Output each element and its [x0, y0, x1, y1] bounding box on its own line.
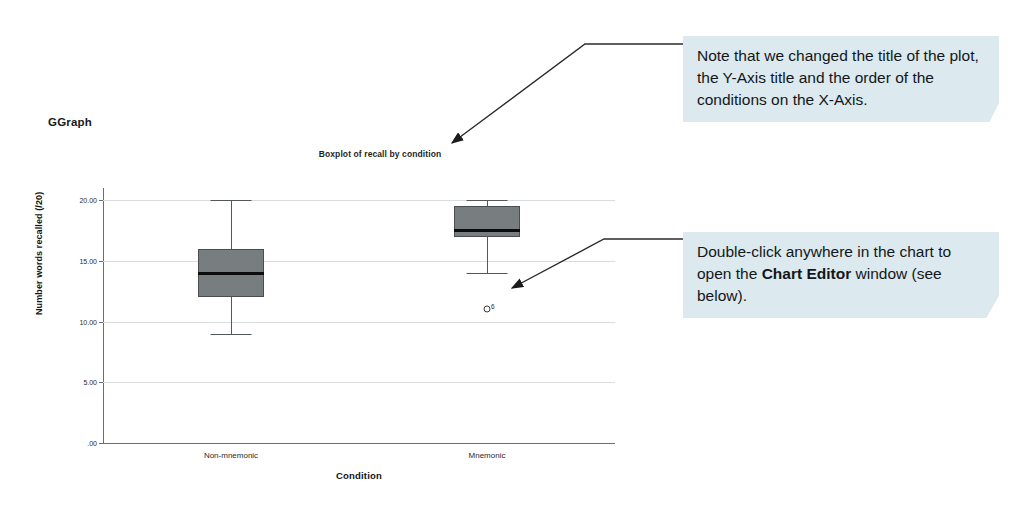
x-tick-label-mnemonic: Mnemonic	[469, 451, 506, 460]
y-tick-mark	[99, 261, 103, 262]
ggraph-section-label: GGraph	[48, 116, 92, 128]
leader-line-1	[452, 44, 683, 143]
gridline	[103, 261, 615, 262]
boxplot-chart[interactable]: Boxplot of recall by condition Number wo…	[40, 140, 640, 490]
y-tick-label: 10.00	[79, 318, 97, 325]
gridline	[103, 322, 615, 323]
whisker-cap-lower	[467, 273, 508, 274]
y-tick-mark	[99, 200, 103, 201]
callout-2-text-part-1: Chart Editor	[762, 265, 852, 282]
median-line	[454, 229, 520, 232]
gridline	[103, 200, 615, 201]
y-tick-mark	[99, 382, 103, 383]
y-tick-mark	[99, 443, 103, 444]
callout-title-note: Note that we changed the title of the pl…	[683, 36, 999, 122]
x-axis-title: Condition	[103, 470, 615, 481]
outlier-case-label: 6	[491, 303, 495, 310]
whisker-cap-upper	[467, 200, 508, 201]
y-tick-label: 15.00	[79, 257, 97, 264]
chart-title: Boxplot of recall by condition	[255, 149, 505, 159]
y-tick-label: .00	[87, 440, 97, 447]
y-axis-title: Number words recalled (/20)	[34, 192, 44, 315]
y-tick-mark	[99, 322, 103, 323]
plot-area[interactable]: .005.0010.0015.0020.006	[103, 188, 615, 443]
page-canvas: GGraph Boxplot of recall by condition Nu…	[0, 0, 1030, 514]
whisker-cap-lower	[211, 334, 252, 335]
callout-1-text-part-0: Note that we changed the title of the pl…	[697, 47, 979, 108]
y-tick-label: 5.00	[83, 379, 97, 386]
whisker-cap-upper	[211, 200, 252, 201]
median-line	[198, 272, 264, 275]
gridline	[103, 382, 615, 383]
y-tick-label: 20.00	[79, 197, 97, 204]
callout-chart-editor: Double-click anywhere in the chart to op…	[683, 232, 999, 318]
x-axis-line	[103, 443, 615, 444]
outlier-point[interactable]	[484, 306, 491, 313]
x-tick-label-non-mnemonic: Non-mnemonic	[204, 451, 258, 460]
